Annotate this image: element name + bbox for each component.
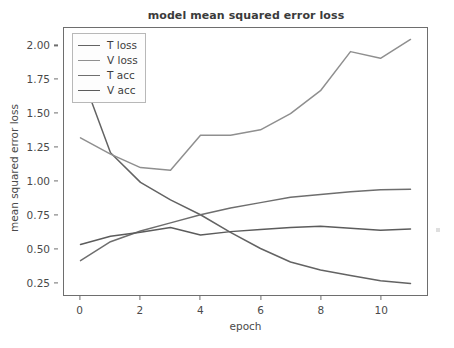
y-tick-label: 0.75 xyxy=(27,209,50,221)
series-line-t-acc xyxy=(80,189,410,260)
y-tick-label: 1.75 xyxy=(27,73,50,85)
edge-artifact xyxy=(436,228,440,232)
legend[interactable]: T lossV lossT accV acc xyxy=(72,33,146,103)
y-tick-mark xyxy=(54,147,58,148)
y-axis-label: mean squared error loss xyxy=(8,68,20,268)
legend-line-swatch xyxy=(78,45,100,46)
x-tick-mark xyxy=(139,296,140,300)
x-tick-mark xyxy=(260,296,261,300)
y-tick-mark xyxy=(54,282,58,283)
legend-item-v-acc[interactable]: V acc xyxy=(78,83,138,98)
y-tick-label: 1.50 xyxy=(27,107,50,119)
y-tick-mark xyxy=(54,45,58,46)
y-tick-mark xyxy=(54,215,58,216)
y-tick-label: 1.25 xyxy=(27,141,50,153)
x-tick-label: 0 xyxy=(76,304,83,316)
figure-canvas: model mean squared error loss 0.250.500.… xyxy=(0,0,454,348)
legend-line-swatch xyxy=(78,60,100,61)
x-tick-mark xyxy=(200,296,201,300)
y-tick-mark xyxy=(54,249,58,250)
x-tick-mark xyxy=(79,296,80,300)
legend-item-label: T loss xyxy=(107,40,137,51)
y-tick-mark xyxy=(54,181,58,182)
legend-line-swatch xyxy=(78,75,100,76)
legend-item-label: T acc xyxy=(107,70,135,81)
x-tick-mark xyxy=(320,296,321,300)
y-tick-label: 2.00 xyxy=(27,39,50,51)
y-tick-mark xyxy=(54,79,58,80)
legend-item-t-acc[interactable]: T acc xyxy=(78,68,138,83)
legend-item-label: V acc xyxy=(107,85,136,96)
y-tick-label: 1.00 xyxy=(27,175,50,187)
x-tick-label: 8 xyxy=(318,304,325,316)
y-tick-label: 0.25 xyxy=(27,277,50,289)
x-tick-mark xyxy=(381,296,382,300)
legend-item-v-loss[interactable]: V loss xyxy=(78,53,138,68)
legend-item-t-loss[interactable]: T loss xyxy=(78,38,138,53)
x-axis-label: epoch xyxy=(63,320,428,332)
y-tick-label: 0.50 xyxy=(27,243,50,255)
x-tick-label: 4 xyxy=(197,304,204,316)
x-tick-label: 10 xyxy=(375,304,388,316)
series-line-t-loss xyxy=(80,72,410,284)
x-tick-label: 2 xyxy=(137,304,144,316)
x-axis-tick-labels: 0246810 xyxy=(63,296,428,318)
y-tick-mark xyxy=(54,113,58,114)
legend-line-swatch xyxy=(78,90,100,91)
x-tick-label: 6 xyxy=(257,304,264,316)
chart-title: model mean squared error loss xyxy=(63,9,429,22)
legend-item-label: V loss xyxy=(107,55,138,66)
